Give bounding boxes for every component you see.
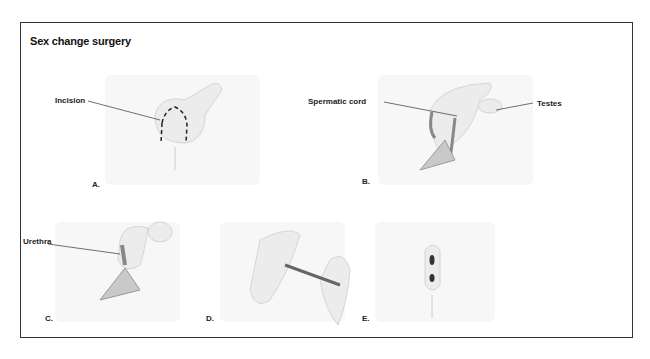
callout-spermatic-cord: Spermatic cord bbox=[308, 97, 366, 106]
panel-d-letter: D. bbox=[206, 314, 214, 323]
panel-c-letter: C. bbox=[45, 314, 53, 323]
callout-urethra: Urethra bbox=[23, 237, 51, 246]
callout-testes: Testes bbox=[537, 99, 562, 108]
panel-b-letter: B. bbox=[362, 177, 370, 186]
panel-a-letter: A. bbox=[92, 180, 100, 189]
panel-e-letter: E. bbox=[362, 314, 370, 323]
